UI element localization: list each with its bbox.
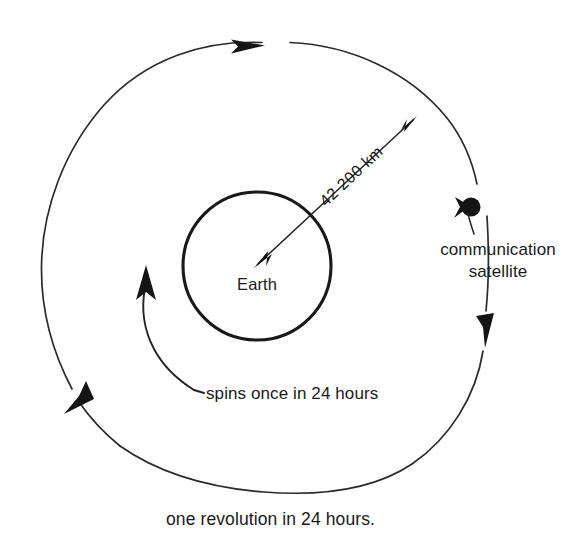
orbit-arc-top-right xyxy=(290,43,477,185)
satellite-label-line1: communication xyxy=(440,240,556,259)
spin-note-label: spins once in 24 hours xyxy=(206,384,378,403)
spin-arc xyxy=(143,288,194,390)
satellite-marker[interactable] xyxy=(454,197,481,234)
orbit-radius-label: 42 200 km xyxy=(316,142,386,209)
spin-arc-leader xyxy=(194,390,204,393)
earth-group xyxy=(183,192,331,340)
earth-label: Earth xyxy=(237,275,277,293)
figure-caption: one revolution in 24 hours. xyxy=(166,509,375,529)
satellite-leader-line xyxy=(468,214,474,234)
satellite-dot-icon xyxy=(462,198,481,217)
arrowhead-counterclockwise-icon xyxy=(136,265,156,300)
orbit-arc-left-upper xyxy=(41,42,262,389)
spin-arc-group xyxy=(136,265,204,393)
arrowhead-clockwise-icon xyxy=(476,313,494,348)
orbit-arc-left-lower xyxy=(79,402,120,446)
orbit-arc-right-lower xyxy=(120,351,483,493)
arrowhead-clockwise-icon xyxy=(64,381,94,414)
orbit-group xyxy=(41,40,494,494)
satellite-orbit-diagram: Earth 42 200 km communication satellite … xyxy=(0,0,579,535)
earth-circle xyxy=(183,192,331,340)
diagram-canvas: Earth 42 200 km communication satellite … xyxy=(0,0,579,535)
satellite-label-line2: satellite xyxy=(469,262,528,281)
